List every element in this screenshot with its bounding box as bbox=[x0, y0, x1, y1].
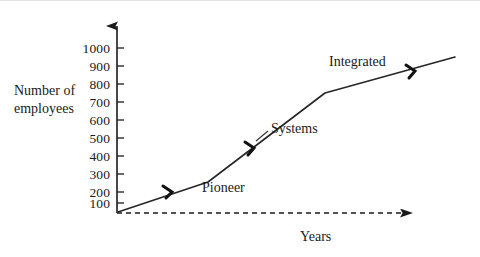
y-axis bbox=[117, 26, 124, 213]
series-label-pioneer: Pioneer bbox=[202, 181, 245, 195]
y-tick-label-100: 100 bbox=[70, 197, 110, 211]
y-axis-title-line2: employees bbox=[14, 100, 75, 118]
y-tick-label-700: 700 bbox=[70, 96, 110, 110]
y-axis-ticks bbox=[117, 48, 124, 203]
series-label-integrated: Integrated bbox=[329, 55, 386, 69]
marker-integrated bbox=[406, 65, 415, 78]
y-tick-label-500: 500 bbox=[70, 132, 110, 146]
y-tick-label-1000: 1000 bbox=[70, 42, 110, 56]
y-tick-label-400: 400 bbox=[70, 150, 110, 164]
y-axis-title: Number of employees bbox=[14, 82, 75, 117]
leader-systems bbox=[256, 131, 268, 141]
y-tick-label-300: 300 bbox=[70, 168, 110, 182]
y-axis-title-line1: Number of bbox=[14, 82, 75, 100]
chart-figure: 1000 900 800 700 600 500 400 300 200 100… bbox=[0, 0, 480, 257]
y-tick-label-800: 800 bbox=[70, 78, 110, 92]
label-leader-lines bbox=[256, 131, 268, 141]
y-tick-label-600: 600 bbox=[70, 114, 110, 128]
y-tick-label-900: 900 bbox=[70, 60, 110, 74]
chart-canvas bbox=[0, 0, 480, 257]
series-label-systems: Systems bbox=[271, 122, 318, 136]
x-axis-title: Years bbox=[300, 228, 331, 246]
